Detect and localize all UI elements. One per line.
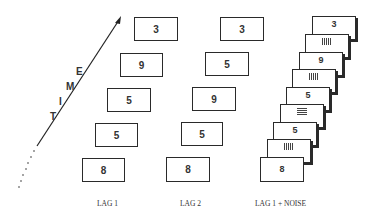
stack-card-digit: 8 bbox=[260, 157, 304, 182]
card-digit: 5 bbox=[95, 123, 138, 147]
horizontal-bars-noise-icon bbox=[297, 108, 307, 115]
column-label: LAG 1 + NOISE bbox=[255, 199, 306, 208]
time-letter-e: E bbox=[76, 66, 83, 77]
column-label: LAG 2 bbox=[180, 199, 201, 208]
card-digit: 9 bbox=[120, 53, 163, 77]
card-digit: 8 bbox=[82, 158, 125, 182]
card-digit: 9 bbox=[192, 87, 236, 111]
card-digit: 8 bbox=[166, 157, 210, 182]
card-digit: 3 bbox=[134, 17, 178, 41]
lag-diagram: T I M E 3 9 5 5 8 LAG 1 3 5 9 5 8 LAG 2 … bbox=[0, 0, 370, 217]
card-digit: 5 bbox=[107, 88, 151, 112]
dotted-continuation bbox=[18, 150, 35, 188]
vertical-bars-noise-icon bbox=[284, 143, 294, 150]
card-digit: 3 bbox=[220, 17, 264, 41]
card-digit: 5 bbox=[181, 122, 223, 146]
vertical-bars-noise-icon bbox=[322, 38, 332, 45]
time-letter-m: M bbox=[66, 81, 74, 92]
time-letter-i: I bbox=[59, 96, 62, 107]
card-digit: 5 bbox=[205, 52, 249, 76]
vertical-bars-noise-icon bbox=[309, 73, 319, 80]
column-label: LAG 1 bbox=[97, 199, 118, 208]
time-letter-t: T bbox=[50, 111, 56, 122]
